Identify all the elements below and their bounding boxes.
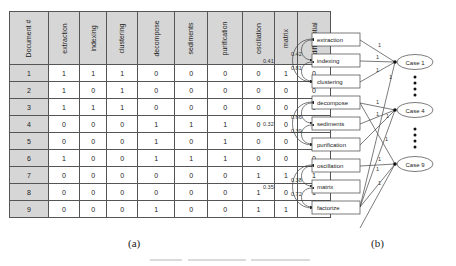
arc-group2-pair1 — [302, 103, 313, 123]
svg-text:purification: purification — [317, 142, 346, 148]
table-cell: 0 — [80, 150, 107, 167]
ellipsis-dot — [414, 146, 417, 149]
header-purification: purification — [208, 12, 243, 65]
case-nodes: Case 1 Case 4 Case 9 — [393, 55, 433, 172]
ellipsis-dot — [414, 128, 417, 131]
row-document-number: 5 — [10, 133, 49, 150]
table-cell: 0 — [107, 133, 138, 150]
table-cell: 1 — [175, 116, 208, 133]
table-cell: 0 — [48, 167, 79, 184]
svg-text:0.81: 0.81 — [291, 65, 302, 71]
junction-dot — [393, 162, 397, 166]
table-cell: 0 — [80, 116, 107, 133]
svg-text:factorize: factorize — [317, 205, 340, 211]
ellipsis-dot — [414, 88, 417, 91]
ellipsis-dot — [414, 76, 417, 79]
table-cell: 0 — [107, 201, 138, 218]
table-cell: 0 — [208, 167, 243, 184]
table-cell: 0 — [138, 65, 175, 82]
svg-text:0.38: 0.38 — [291, 177, 302, 183]
table-cell: 0 — [175, 65, 208, 82]
svg-text:decompose: decompose — [317, 100, 349, 106]
row-document-number: 1 — [10, 65, 49, 82]
svg-text:Case 1: Case 1 — [405, 60, 425, 66]
table-cell: 1 — [48, 65, 79, 82]
table-cell: 1 — [107, 99, 138, 116]
svg-text:Case 9: Case 9 — [405, 162, 425, 168]
table-cell: 0 — [175, 184, 208, 201]
table-cell: 1 — [208, 150, 243, 167]
table-cell: 0 — [80, 167, 107, 184]
row-document-number: 9 — [10, 201, 49, 218]
table-cell: 1 — [80, 99, 107, 116]
header-sediments: sediments — [175, 12, 208, 65]
header-clustering: clustering — [107, 12, 138, 65]
svg-text:1: 1 — [386, 113, 389, 119]
table-cell: 0 — [138, 184, 175, 201]
svg-text:1: 1 — [376, 99, 379, 105]
svg-text:1: 1 — [376, 54, 379, 60]
table-cell: 0 — [175, 99, 208, 116]
svg-text:0.32: 0.32 — [263, 121, 274, 127]
header-document: Document # — [10, 12, 49, 65]
arc-group2-pair2 — [302, 125, 313, 144]
row-document-number: 4 — [10, 116, 49, 133]
table-cell: 0 — [107, 184, 138, 201]
row-document-number: 3 — [10, 99, 49, 116]
table-cell: 0 — [107, 116, 138, 133]
svg-text:1: 1 — [376, 67, 379, 73]
table-cell: 1 — [138, 116, 175, 133]
svg-text:Case 4: Case 4 — [405, 108, 425, 114]
table-cell: 0 — [175, 201, 208, 218]
table-cell: 1 — [208, 116, 243, 133]
table-cell: 0 — [107, 150, 138, 167]
arc-group3-pair2 — [302, 188, 313, 207]
table-cell: 1 — [48, 150, 79, 167]
term-case-diagram-panel: 1 1 1 1 1 1 1 1 1 1 1 Case 1 Case 4 — [258, 0, 456, 240]
junction-dot — [393, 108, 397, 112]
table-cell: 0 — [48, 184, 79, 201]
table-cell: 1 — [175, 150, 208, 167]
table-cell: 1 — [48, 99, 79, 116]
arc-group3-pair1 — [302, 166, 313, 186]
svg-text:indexing: indexing — [317, 58, 339, 64]
ellipsis-dot — [414, 82, 417, 85]
table-cell: 0 — [138, 167, 175, 184]
table-cell: 1 — [107, 65, 138, 82]
ellipsis-dot — [414, 94, 417, 97]
row-document-number: 7 — [10, 167, 49, 184]
table-cell: 0 — [208, 184, 243, 201]
table-cell: 1 — [138, 201, 175, 218]
edge-factorize-case9 — [360, 164, 395, 228]
header-decompose: decompose — [138, 12, 175, 65]
table-cell: 1 — [208, 133, 243, 150]
table-cell: 1 — [80, 65, 107, 82]
table-cell: 0 — [48, 133, 79, 150]
svg-text:1: 1 — [385, 136, 388, 142]
arc-group1-pair1 — [302, 40, 313, 60]
svg-text:1: 1 — [376, 166, 379, 172]
svg-text:0.35: 0.35 — [263, 184, 274, 190]
table-cell: 0 — [208, 65, 243, 82]
table-cell: 0 — [80, 133, 107, 150]
svg-text:0.66: 0.66 — [291, 114, 302, 120]
table-cell: 0 — [208, 201, 243, 218]
svg-text:clustering: clustering — [317, 79, 343, 85]
table-cell: 0 — [138, 82, 175, 99]
svg-text:0.41: 0.41 — [263, 58, 274, 64]
svg-text:sediments: sediments — [317, 121, 344, 127]
edge-indexing-case1 — [360, 61, 395, 62]
svg-text:0.42: 0.42 — [291, 51, 302, 57]
row-document-number: 2 — [10, 82, 49, 99]
arc-group1-pair2 — [302, 62, 313, 81]
table-cell: 0 — [48, 201, 79, 218]
svg-text:0.72: 0.72 — [291, 191, 302, 197]
table-cell: 0 — [138, 99, 175, 116]
term-nodes: extraction indexing clustering decompose… — [312, 33, 360, 214]
row-document-number: 6 — [10, 150, 49, 167]
term-case-diagram: 1 1 1 1 1 1 1 1 1 1 1 Case 1 Case 4 — [258, 0, 456, 240]
table-cell: 0 — [208, 82, 243, 99]
row-document-number: 8 — [10, 184, 49, 201]
junction-dot — [393, 60, 397, 64]
table-cell: 0 — [208, 99, 243, 116]
